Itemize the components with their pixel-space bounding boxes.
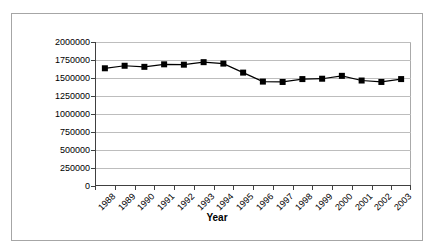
x-tick-label: 1996 — [255, 192, 276, 213]
x-tick-mark — [95, 186, 96, 190]
x-tick-label: 2000 — [334, 192, 355, 213]
x-tick-label: 1999 — [314, 192, 335, 213]
data-point-marker — [280, 79, 286, 85]
data-series — [95, 42, 411, 186]
x-tick-mark — [115, 186, 116, 190]
x-tick-label: 2003 — [393, 192, 414, 213]
data-point-marker — [122, 63, 128, 69]
x-tick-label: 1993 — [195, 192, 216, 213]
y-tick-label: 750000 — [60, 128, 90, 137]
x-tick-label: 1997 — [274, 192, 295, 213]
y-tick-label: 0 — [85, 182, 90, 191]
x-tick-mark — [293, 186, 294, 190]
x-tick-label: 1994 — [215, 192, 236, 213]
data-point-marker — [161, 61, 167, 67]
x-tick-mark — [194, 186, 195, 190]
data-point-marker — [398, 76, 404, 82]
data-point-marker — [220, 61, 226, 67]
x-tick-mark — [214, 186, 215, 190]
x-tick-mark — [233, 186, 234, 190]
x-tick-label: 1992 — [176, 192, 197, 213]
y-tick-label: 2000000 — [55, 38, 90, 47]
x-tick-mark — [273, 186, 274, 190]
x-tick-mark — [410, 186, 411, 190]
x-tick-mark — [332, 186, 333, 190]
series-line — [105, 62, 401, 82]
x-tick-label: 1998 — [294, 192, 315, 213]
x-tick-label: 2002 — [373, 192, 394, 213]
x-axis-title: Year — [12, 212, 422, 223]
x-tick-label: 2001 — [353, 192, 374, 213]
y-tick-label: 1500000 — [55, 74, 90, 83]
data-point-marker — [319, 76, 325, 82]
data-point-marker — [299, 76, 305, 82]
x-tick-label: 1991 — [156, 192, 177, 213]
data-point-marker — [201, 59, 207, 65]
y-tick-label: 1000000 — [55, 110, 90, 119]
x-tick-mark — [312, 186, 313, 190]
data-point-marker — [240, 70, 246, 76]
y-tick-label: 250000 — [60, 164, 90, 173]
x-tick-label: 1995 — [235, 192, 256, 213]
data-point-marker — [260, 79, 266, 85]
x-tick-mark — [253, 186, 254, 190]
data-point-marker — [378, 79, 384, 85]
x-tick-label: 1988 — [97, 192, 118, 213]
x-tick-label: 1989 — [116, 192, 137, 213]
data-point-marker — [359, 78, 365, 84]
x-tick-mark — [135, 186, 136, 190]
data-point-marker — [141, 64, 147, 70]
chart-frame: 0250000500000750000100000012500001500000… — [11, 13, 423, 241]
series-markers — [102, 59, 404, 85]
x-tick-mark — [372, 186, 373, 190]
plot-area: 0250000500000750000100000012500001500000… — [95, 42, 411, 186]
y-tick-label: 500000 — [60, 146, 90, 155]
x-tick-mark — [174, 186, 175, 190]
y-tick-label: 1750000 — [55, 56, 90, 65]
data-point-marker — [102, 65, 108, 71]
data-point-marker — [339, 73, 345, 79]
chart-title-cropped — [0, 0, 435, 10]
x-tick-label: 1990 — [136, 192, 157, 213]
x-tick-mark — [352, 186, 353, 190]
x-tick-mark — [154, 186, 155, 190]
y-tick-label: 1250000 — [55, 92, 90, 101]
x-tick-mark — [391, 186, 392, 190]
data-point-marker — [181, 62, 187, 68]
